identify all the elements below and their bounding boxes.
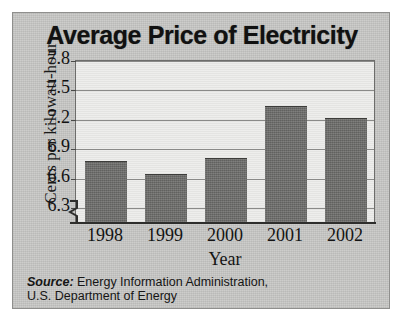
x-tick-label: 2001: [255, 225, 315, 246]
plot-area: 7.87.57.26.96.66.3: [75, 60, 375, 222]
x-tick-label: 2002: [315, 225, 375, 246]
y-tick-label: 7.8: [48, 48, 71, 69]
y-tick-mark: [71, 90, 76, 91]
bar-2002: [325, 118, 367, 222]
y-tick-label: 6.9: [48, 136, 71, 157]
x-tick-label: 2000: [195, 225, 255, 246]
bar-1999: [145, 174, 187, 222]
y-tick-label: 7.5: [48, 77, 71, 98]
gridline: [76, 90, 374, 91]
gridline: [76, 61, 374, 62]
x-axis-title: Year: [75, 249, 375, 270]
chart-title: Average Price of Electricity: [13, 21, 391, 50]
chart-figure-card: Average Price of Electricity Cents per k…: [12, 12, 390, 309]
y-tick-mark: [71, 149, 76, 150]
source-label: Source:: [27, 275, 74, 289]
x-tick-label: 1998: [75, 225, 135, 246]
bar-2001: [265, 106, 307, 222]
y-tick-mark: [71, 179, 76, 180]
source-line1: Energy Information Administration,: [74, 275, 269, 289]
y-tick-label: 6.6: [48, 166, 71, 187]
y-tick-label: 7.2: [48, 107, 71, 128]
bar-1998: [85, 161, 127, 222]
source-line2: U.S. Department of Energy: [27, 289, 177, 303]
y-tick-mark: [71, 120, 76, 121]
x-axis-line: [75, 222, 376, 224]
bar-2000: [205, 158, 247, 222]
source-note: Source: Energy Information Administratio…: [27, 275, 377, 303]
x-tick-label: 1999: [135, 225, 195, 246]
y-tick-mark: [71, 61, 76, 62]
